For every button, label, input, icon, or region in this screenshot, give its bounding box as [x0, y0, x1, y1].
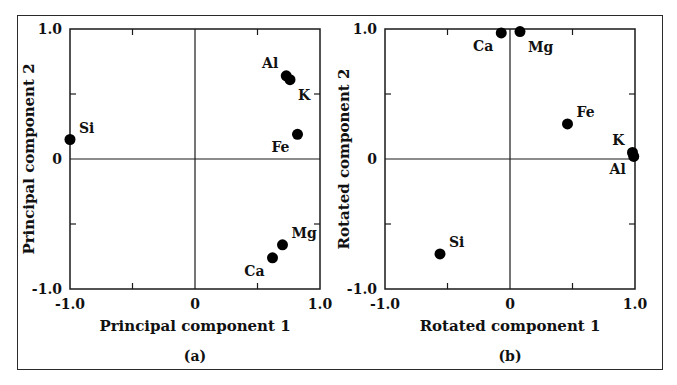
x-tick-label: -1.0 [55, 296, 85, 312]
panel-caption: (b) [498, 348, 521, 364]
y-axis-title: Rotated component 2 [335, 69, 353, 250]
data-point-mg [277, 239, 288, 250]
point-label-fe: Fe [577, 104, 595, 120]
data-point-mg [515, 26, 526, 37]
panel-caption: (a) [184, 348, 206, 364]
point-label-si: Si [449, 234, 464, 250]
y-tick-label: 1.0 [353, 21, 378, 37]
x-tick-label: 0 [190, 296, 200, 312]
scatter-plot-a: -1.001.0-1.001.0Principal component 1Pri… [20, 21, 332, 364]
x-tick-label: 1.0 [623, 296, 648, 312]
point-label-k: K [612, 132, 625, 148]
x-tick-label: 0 [505, 296, 515, 312]
y-tick-label: -1.0 [32, 281, 62, 297]
y-tick-label: -1.0 [347, 281, 377, 297]
point-label-ca: Ca [244, 263, 264, 279]
data-point-si [65, 134, 76, 145]
data-point-si [435, 248, 446, 259]
scatter-plot-b: -1.001.0-1.001.0Rotated component 1Rotat… [335, 21, 647, 364]
x-axis-title: Rotated component 1 [420, 317, 601, 335]
y-tick-label: 1.0 [38, 21, 63, 37]
y-tick-label: 0 [52, 151, 62, 167]
point-label-si: Si [79, 120, 94, 136]
point-label-al: Al [609, 161, 626, 177]
point-label-mg: Mg [528, 39, 553, 55]
point-label-k: K [298, 87, 311, 103]
y-axis-title: Principal component 2 [20, 63, 38, 254]
figure-canvas: -1.001.0-1.001.0Principal component 1Pri… [0, 0, 677, 385]
point-label-mg: Mg [292, 225, 317, 241]
data-point-k [285, 74, 296, 85]
point-label-fe: Fe [271, 139, 289, 155]
data-point-al [628, 151, 639, 162]
point-label-al: Al [261, 55, 278, 71]
x-tick-label: 1.0 [308, 296, 333, 312]
data-point-ca [267, 252, 278, 263]
x-tick-label: -1.0 [370, 296, 400, 312]
data-point-fe [292, 129, 303, 140]
data-point-fe [562, 118, 573, 129]
data-point-ca [496, 27, 507, 38]
x-axis-title: Principal component 1 [99, 317, 290, 335]
point-label-ca: Ca [473, 38, 493, 54]
y-tick-label: 0 [367, 151, 377, 167]
